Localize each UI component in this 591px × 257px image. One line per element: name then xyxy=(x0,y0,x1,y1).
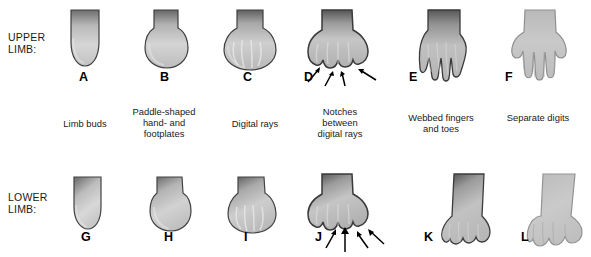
limb-stage-e xyxy=(412,8,474,84)
limb-stage-a xyxy=(62,8,108,70)
lower-limb-row-label: LOWER LIMB: xyxy=(8,191,48,215)
limb-label-j: J xyxy=(315,230,322,244)
limb-label-l: L xyxy=(521,230,529,244)
limb-label-e: E xyxy=(409,70,418,84)
limb-label-f: F xyxy=(505,70,513,84)
limb-label-i: I xyxy=(244,230,248,244)
caption-webbed: Webbed fingers and toes xyxy=(386,112,496,134)
limb-stage-h xyxy=(145,175,195,235)
limb-stage-b xyxy=(138,8,192,72)
caption-notches: Notches between digital rays xyxy=(288,106,392,140)
limb-stage-c xyxy=(218,8,280,74)
limb-label-a: A xyxy=(79,70,88,84)
limb-label-g: G xyxy=(81,230,91,244)
caption-separate-digits: Separate digits xyxy=(488,112,588,123)
limb-stage-i xyxy=(222,175,280,237)
limb-label-h: H xyxy=(164,230,173,244)
limb-label-b: B xyxy=(160,70,169,84)
limb-label-c: C xyxy=(243,70,252,84)
limb-stage-l xyxy=(527,172,589,254)
limb-label-k: K xyxy=(424,230,433,244)
limb-stage-f xyxy=(505,8,575,82)
limb-stage-k xyxy=(440,172,496,254)
limb-label-d: D xyxy=(304,70,313,84)
limb-stage-g xyxy=(66,175,110,233)
upper-limb-row-label: UPPER LIMB: xyxy=(8,31,45,55)
